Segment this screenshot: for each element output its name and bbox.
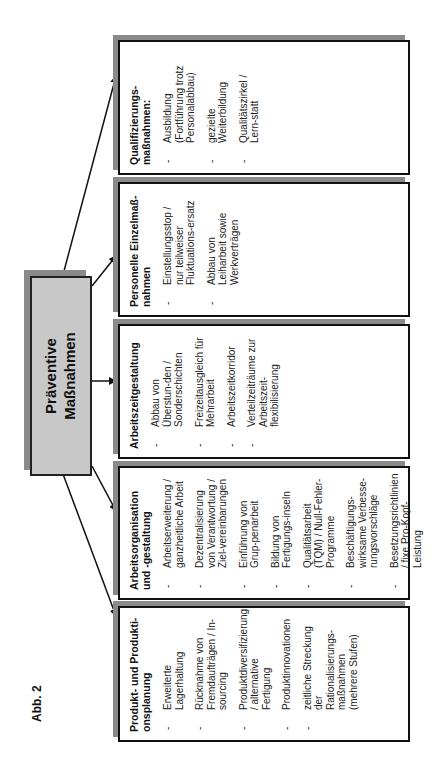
box-arbeitszeitgestaltung: Arbeitszeitgestaltung Abbau von Überstun… [118,324,410,459]
list-item: Qualitätsarbeit (TQM) / Null-Fehler-Prog… [302,476,337,590]
box-personelle-einzelmassnahmen: Personelle Einzelmaß-nahmen Einstellungs… [118,182,410,317]
list-item: Ausbildung (Fortführung trotz Personalab… [162,50,197,165]
box-arbeitsorganisation: Arbeitsorganisation und -gestaltung Arbe… [118,466,410,600]
list-item: Freizeitausgleich für Mehrarbeit [194,334,217,449]
list-item: Einführung von Grup-penarbeit [238,476,261,590]
list-item: Beschäftigungs-wirksame Verbesse-rungsvo… [345,476,380,590]
center-node-praeventive-massnahmen: Präventive Maßnahmen [30,276,92,476]
diagram-canvas: Abb. 2 Präventive Maßnahmen Produkt- und… [0,0,439,766]
box-title: Arbeitszeitgestaltung [128,334,140,449]
list-item: Rücknahme von Fremdaufträgen / In-sourci… [194,616,229,732]
list-item: Produktdiversifizierung / alternative Fe… [238,616,273,732]
list-item: Besetzungsrichtlinien / fixe Pro-Kopf-Le… [389,476,424,590]
box-title: Personelle Einzelmaß-nahmen [128,192,152,307]
list-item: Einstellungsstop / nur teilweiser Fluktu… [162,192,197,307]
list-item: gezielte Weiterbildung [206,50,229,165]
box-title: Arbeitsorganisation und -gestaltung [128,476,152,590]
center-line-2: Maßnahmen [61,332,80,420]
list-item: Dezentralisierung von Verantwortung / Zi… [194,476,229,590]
box-produktplanung: Produkt- und Produkti-onsplanung Erweite… [118,606,410,742]
list-item: Abbau von Leiharbeit sowie Werkverträgen [206,192,241,307]
list-item: Abbau von Überstun-den / Sonderschichten [150,334,185,449]
list-item: Arbeitszeitkorridor [226,334,238,449]
list-item: Produktinnovationen [281,616,293,732]
box-title: Produkt- und Produkti-onsplanung [128,616,152,732]
list-item: Qualitätszirkel / Lern-statt [238,50,261,165]
box-title: Qualifizierungs-maßnahmen: [128,50,152,165]
list-item: Bildung von Fertigungs-inseln [270,476,293,590]
list-item: Arbeitserweiterung / ganzheitliche Arbei… [162,476,185,590]
list-item: Verteilzeiträume zur Arbeitszeit-flexibi… [246,334,281,449]
box-qualifizierungsmassnahmen: Qualifizierungs-maßnahmen: Ausbildung (F… [118,40,410,175]
center-line-1: Präventive [42,338,61,414]
list-item: Erweiterte Lagerhaltung [162,616,185,732]
list-item: zeitliche Streckung der Rationalisierung… [302,616,360,732]
